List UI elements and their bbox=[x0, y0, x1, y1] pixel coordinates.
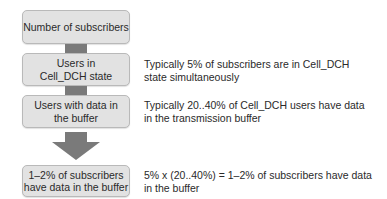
description-data-in-buffer: Typically 20..40% of Cell_DCH users have… bbox=[144, 99, 365, 124]
down-arrow-icon bbox=[52, 132, 100, 160]
box-label: Number of subscribers bbox=[23, 21, 129, 34]
connector-bar bbox=[65, 44, 87, 53]
box-label: Users with data in the buffer bbox=[26, 99, 126, 124]
description-result-formula: 5% x (20..40%) = 1–2% of subscribers hav… bbox=[144, 169, 372, 194]
description-cell-dch: Typically 5% of subscribers are in Cell_… bbox=[144, 58, 349, 83]
box-users-in-cell-dch: Users in Cell_DCH state bbox=[22, 53, 130, 86]
box-label: 1–2% of subscribers have data in the buf… bbox=[23, 169, 129, 194]
box-users-with-data-in-buffer: Users with data in the buffer bbox=[22, 95, 130, 128]
box-label: Users in Cell_DCH state bbox=[36, 57, 116, 82]
connector-bar bbox=[65, 86, 87, 95]
box-result-subscribers-with-data: 1–2% of subscribers have data in the buf… bbox=[22, 165, 130, 197]
box-number-of-subscribers: Number of subscribers bbox=[22, 10, 130, 44]
